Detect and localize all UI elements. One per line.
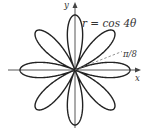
polar-rose-figure: r = cos 4θ π/8 x y xyxy=(0,0,146,132)
x-axis-arrow-icon xyxy=(135,68,141,73)
x-axis-label: x xyxy=(135,73,140,83)
equation-label: r = cos 4θ xyxy=(82,17,137,29)
y-axis-label: y xyxy=(63,0,69,10)
angle-dashed-line xyxy=(75,52,122,71)
angle-label: π/8 xyxy=(122,49,137,59)
y-axis-arrow-icon xyxy=(73,2,78,8)
